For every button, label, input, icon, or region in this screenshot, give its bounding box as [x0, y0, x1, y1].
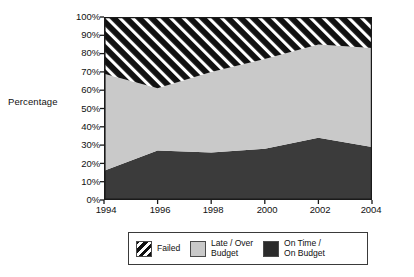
x-tick-1998: 1998: [190, 204, 236, 215]
x-tick-1996: 1996: [137, 204, 183, 215]
legend-item-late-over-budget[interactable]: Late / Over Budget: [190, 239, 253, 258]
legend: Failed Late / Over Budget On Time / On B…: [128, 232, 368, 265]
stacked-area-chart: Percentage 100% 90% 80% 70% 60% 50% 40% …: [0, 0, 414, 277]
plot-area: [104, 17, 372, 200]
legend-item-failed[interactable]: Failed: [136, 241, 180, 257]
x-tick-2004: 2004: [348, 204, 394, 215]
legend-item-on-time-on-budget[interactable]: On Time / On Budget: [263, 239, 325, 258]
plot-svg: [104, 17, 372, 200]
legend-swatch-late-over-budget-icon: [190, 241, 206, 257]
legend-items: Failed Late / Over Budget On Time / On B…: [129, 233, 367, 264]
legend-swatch-failed-icon: [136, 241, 152, 257]
legend-swatch-on-time-on-budget-icon: [263, 241, 279, 257]
legend-label-on-time-on-budget: On Time / On Budget: [284, 239, 325, 258]
x-tick-2000: 2000: [244, 204, 290, 215]
legend-label-failed: Failed: [157, 244, 180, 254]
legend-label-late-over-budget: Late / Over Budget: [211, 239, 253, 258]
x-tick-1994: 1994: [83, 204, 129, 215]
x-tick-2002: 2002: [297, 204, 343, 215]
series-layer: [104, 17, 372, 200]
